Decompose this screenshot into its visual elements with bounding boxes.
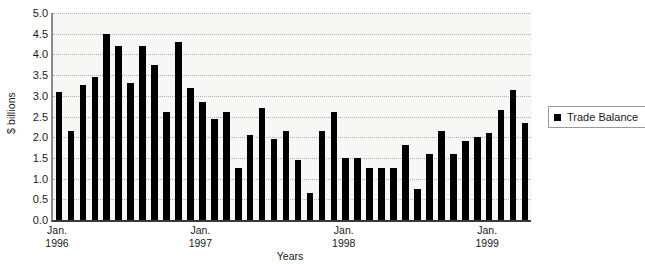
bar [68,131,75,220]
bar [474,137,481,220]
x-tick-label: Jan.1999 [475,224,498,249]
bar [378,168,385,220]
bar [426,154,433,220]
bar [283,131,290,220]
x-tick-label-line1: Jan. [334,224,354,236]
x-tick-label: Jan.1996 [45,224,68,249]
bar [450,154,457,220]
x-tick-label: Jan.1997 [189,224,212,249]
x-tick-label-line1: Jan. [47,224,67,236]
bar-series-trade-balance [53,13,531,220]
x-tick-label-line2: 1997 [189,237,212,250]
y-tick-label: 2.5 [33,111,48,122]
bar [187,88,194,220]
bar [414,189,421,220]
bar [307,193,314,220]
y-tick-label: 1.5 [33,152,48,163]
y-tick-label: 4.5 [33,28,48,39]
bar [366,168,373,220]
x-tick-label: Jan.1998 [332,224,355,249]
y-tick-label: 0.5 [33,194,48,205]
bar [438,131,445,220]
y-tick-label: 4.0 [33,49,48,60]
y-tick-label: 3.5 [33,70,48,81]
x-tick-label-line1: Jan. [190,224,210,236]
bar [498,110,505,220]
bar [199,102,206,220]
bar [354,158,361,220]
y-tick-label: 3.0 [33,90,48,101]
bar [319,131,326,220]
legend-swatch-icon [554,114,561,121]
bar [390,168,397,220]
bar [211,119,218,220]
bar [259,108,266,220]
x-tick-label-line2: 1996 [45,237,68,250]
bar [486,133,493,220]
bar [331,112,338,220]
bar [151,65,158,220]
bar [402,145,409,220]
bar [175,42,182,220]
x-tick-label-line2: 1998 [332,237,355,250]
x-axis-title: Years [0,250,580,262]
chart-screenshot: $ billions 5.04.54.03.53.02.52.01.51.00.… [0,0,645,264]
y-tick-label: 1.0 [33,173,48,184]
bar [510,90,517,220]
y-tick-label: 5.0 [33,8,48,19]
bar [522,123,529,220]
bar [163,112,170,220]
bar [56,92,63,220]
bar [92,77,99,220]
bar [127,83,134,220]
bar [462,141,469,220]
bar [139,46,146,220]
bar [115,46,122,220]
bar [80,85,87,220]
x-tick-label-line2: 1999 [475,237,498,250]
bar [271,139,278,220]
x-axis-title-label: Years [277,250,303,262]
legend-label-trade-balance: Trade Balance [567,111,638,123]
y-axis-tick-labels: 5.04.54.03.53.02.52.01.51.00.50.0 [18,6,48,221]
bar [103,34,110,220]
bar [295,160,302,220]
x-tick-label-line1: Jan. [477,224,497,236]
y-tick-label: 2.0 [33,132,48,143]
bar [342,158,349,220]
bar [247,135,254,220]
y-axis-title-label: $ billions [5,92,17,134]
bar [235,168,242,220]
bar [223,112,230,220]
chart-legend: Trade Balance [548,106,645,128]
plot-area [51,13,531,222]
